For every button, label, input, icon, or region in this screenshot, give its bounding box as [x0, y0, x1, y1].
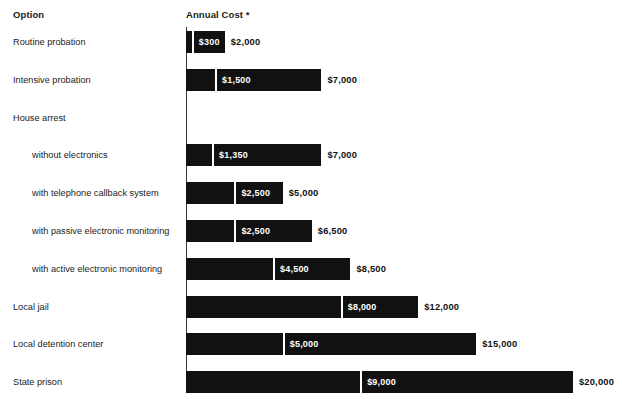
- bar-low-value-label: $1,500: [217, 69, 251, 91]
- range-bar: $8,000: [186, 296, 418, 318]
- bar-high-value-label: $8,500: [356, 258, 386, 280]
- bar-low-value-label: $1,350: [214, 144, 248, 166]
- range-bar: $9,000: [186, 371, 573, 393]
- category-label: State prison: [13, 377, 62, 388]
- category-label: with active electronic monitoring: [32, 264, 162, 275]
- bar-low-value-label: $300: [194, 31, 220, 53]
- category-label: Local jail: [13, 302, 49, 313]
- bar-high-value-label: $5,000: [289, 182, 319, 204]
- bar-low-value-label: $9,000: [362, 371, 396, 393]
- bar-high-value-label: $6,500: [318, 220, 348, 242]
- range-bar: $2,500: [186, 220, 312, 242]
- bar-high-value-label: $15,000: [482, 333, 517, 355]
- category-label: with passive electronic monitoring: [32, 226, 169, 237]
- range-bar: $2,500: [186, 182, 283, 204]
- bar-low-value-label: $2,500: [236, 220, 270, 242]
- category-label: without electronics: [32, 150, 108, 161]
- bar-low-value-label: $5,000: [285, 333, 319, 355]
- bar-high-value-label: $7,000: [327, 69, 357, 91]
- bar-high-value-label: $7,000: [327, 144, 357, 166]
- column-header-option: Option: [13, 9, 44, 20]
- column-header-annual-cost: Annual Cost *: [186, 9, 250, 20]
- range-bar: $300: [186, 31, 225, 53]
- category-label: Routine probation: [13, 37, 86, 48]
- range-bar: $4,500: [186, 258, 350, 280]
- category-label: Intensive probation: [13, 75, 91, 86]
- bar-low-value-label: $4,500: [275, 258, 309, 280]
- bar-high-value-label: $12,000: [424, 296, 459, 318]
- bar-low-value-label: $8,000: [343, 296, 377, 318]
- bar-high-value-label: $2,000: [231, 31, 261, 53]
- category-label: House arrest: [13, 113, 66, 124]
- range-bar: $1,350: [186, 144, 321, 166]
- category-label: Local detention center: [13, 339, 103, 350]
- bar-high-value-label: $20,000: [579, 371, 614, 393]
- range-bar-chart: Option Annual Cost * Routine probationIn…: [0, 0, 622, 399]
- range-bar: $5,000: [186, 333, 476, 355]
- range-bar: $1,500: [186, 69, 321, 91]
- category-label: with telephone callback system: [32, 188, 159, 199]
- bar-low-value-label: $2,500: [236, 182, 270, 204]
